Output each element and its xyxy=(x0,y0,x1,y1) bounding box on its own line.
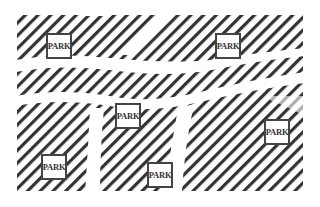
park-marker: PARK xyxy=(215,33,241,59)
park-marker: PARK xyxy=(46,33,72,59)
park-marker: PARK xyxy=(41,154,67,180)
park-marker: PARK xyxy=(147,162,173,188)
park-marker: PARK xyxy=(115,103,141,129)
park-marker: PARK xyxy=(264,119,290,145)
road-top-gap xyxy=(85,13,105,16)
